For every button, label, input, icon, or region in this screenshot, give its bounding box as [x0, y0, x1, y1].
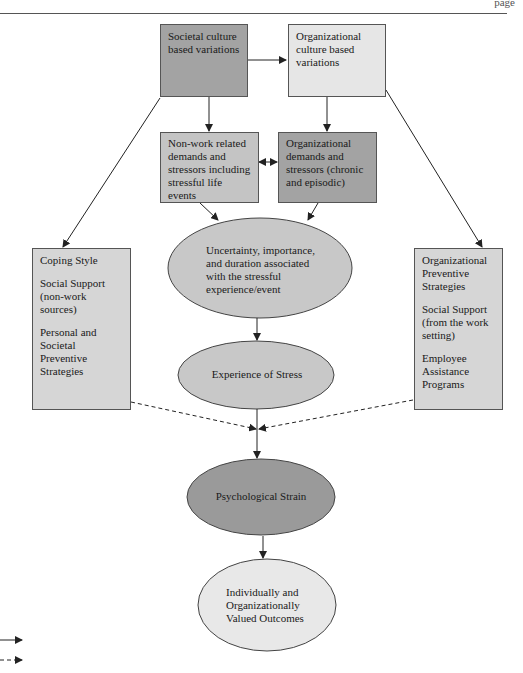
org-preventive-item: Employee Assistance Programs: [422, 352, 495, 391]
societal-culture-label: Societal culture based variations: [168, 30, 239, 55]
coping-item: Coping Style: [40, 254, 123, 267]
organizational-culture-box: Organizational culture based variations: [288, 24, 386, 97]
nonwork-demands-box: Non-work related demands and stressors i…: [160, 132, 259, 203]
coping-item: Social Support (non-work sources): [40, 277, 123, 316]
experience-label: Experience of Stress: [195, 368, 319, 381]
org-preventive-item: Organizational Preventive Strategies: [422, 254, 495, 293]
org-demands-label: Organizational demands and stressors (ch…: [286, 137, 363, 188]
org-preventive-box: Organizational Preventive Strategies Soc…: [414, 248, 503, 410]
outcomes-label: Individually and Organizationally Valued…: [226, 586, 316, 625]
coping-box: Coping Style Social Support (non-work so…: [32, 248, 131, 410]
strain-label: Psychological Strain: [200, 490, 322, 503]
org-demands-box: Organizational demands and stressors (ch…: [278, 132, 377, 203]
coping-item: Personal and Societal Preventive Strateg…: [40, 326, 123, 378]
organizational-culture-label: Organizational culture based variations: [296, 30, 361, 68]
societal-culture-box: Societal culture based variations: [160, 24, 248, 97]
nonwork-demands-label: Non-work related demands and stressors i…: [168, 137, 250, 201]
org-preventive-item: Social Support (from the work setting): [422, 303, 495, 342]
uncertainty-label: Uncertainty, importance, and duration as…: [206, 244, 326, 296]
